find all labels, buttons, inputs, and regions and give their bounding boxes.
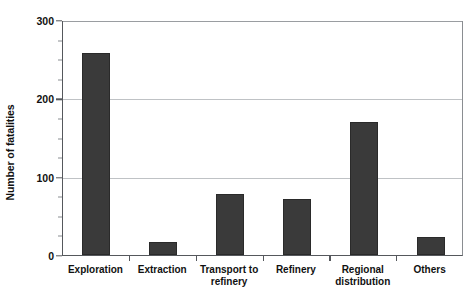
x-tick-label: Refinery <box>276 264 316 276</box>
gridline-100 <box>63 178 462 179</box>
x-tick-label: Regional distribution <box>335 264 390 288</box>
x-boundary-tick <box>396 256 397 261</box>
x-tick-label: Exploration <box>68 264 123 276</box>
x-boundary-tick <box>196 256 197 261</box>
y-tick-label-300: 300 <box>8 15 54 27</box>
x-axis-ticks-layer: ExplorationExtractionTransport to refine… <box>62 256 463 305</box>
gridline-300 <box>63 21 462 22</box>
bar <box>149 242 177 255</box>
x-boundary-tick <box>129 256 130 261</box>
x-tick-label: Transport to refinery <box>200 264 258 288</box>
x-tick-label: Others <box>413 264 445 276</box>
bar <box>350 122 378 255</box>
bar <box>82 53 110 255</box>
x-tick-label: Extraction <box>138 264 187 276</box>
x-boundary-tick <box>329 256 330 261</box>
bar <box>417 237 445 255</box>
bar <box>216 194 244 255</box>
bar-chart-figure: Number of fatalities 0100200300 Explorat… <box>0 0 470 305</box>
y-tick-label-200: 200 <box>8 93 54 105</box>
y-tick-label-100: 100 <box>8 172 54 184</box>
plot-area <box>62 21 463 256</box>
y-tick-label-0: 0 <box>8 250 54 262</box>
gridline-200 <box>63 99 462 100</box>
x-boundary-tick <box>263 256 264 261</box>
bar <box>283 199 311 255</box>
